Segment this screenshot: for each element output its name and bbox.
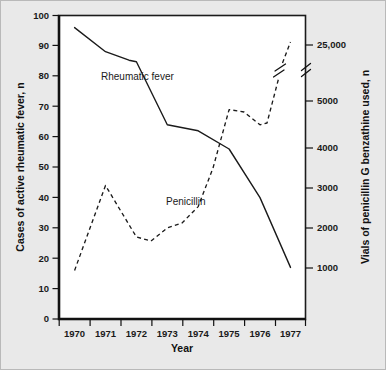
xtick-label-1975: 1975 (219, 328, 241, 339)
y2tick-label-3000: 3000 (317, 182, 338, 193)
x-axis-title: Year (171, 342, 193, 354)
xtick-label-1976: 1976 (249, 328, 270, 339)
xtick-label-1977: 1977 (280, 328, 301, 339)
xtick-label-1973: 1973 (157, 328, 178, 339)
y2-axis-title: Vials of penicillin G benzathine used, n (359, 70, 371, 264)
xtick-label-1972: 1972 (126, 328, 147, 339)
y2tick-label-25000: 25,000 (317, 39, 346, 50)
y-axis-title-group: Cases of active rheumatic fever, n (14, 82, 26, 251)
ytick-label-90: 90 (38, 40, 49, 51)
annotation-penicillin: Penicillin (166, 196, 205, 207)
xtick-label-1970: 1970 (64, 328, 85, 339)
xtick-label-1971: 1971 (95, 328, 117, 339)
x-axis-tick-labels: 1970 1971 1972 1973 1974 1975 1976 1977 (64, 328, 301, 339)
ytick-label-100: 100 (33, 10, 49, 21)
ytick-label-60: 60 (38, 131, 49, 142)
ytick-label-70: 70 (38, 101, 49, 112)
ytick-label-80: 80 (38, 70, 49, 81)
ytick-label-40: 40 (38, 192, 49, 203)
ytick-label-50: 50 (38, 161, 49, 172)
plot-area-frame (59, 16, 306, 320)
y-axis-title: Cases of active rheumatic fever, n (14, 82, 26, 251)
ytick-label-30: 30 (38, 222, 49, 233)
y2tick-label-5000: 5000 (317, 95, 338, 106)
left-axis-tick-labels: 0 10 20 30 40 50 60 70 80 90 100 (33, 10, 49, 324)
y2-axis-title-group: Vials of penicillin G benzathine used, n (359, 70, 371, 264)
chart-figure: 0 10 20 30 40 50 60 70 80 90 100 (1, 1, 386, 370)
figure-page: 0 10 20 30 40 50 60 70 80 90 100 (0, 0, 386, 370)
y2tick-label-2000: 2000 (317, 222, 338, 233)
y2tick-label-4000: 4000 (317, 142, 338, 153)
right-axis-tick-labels: 1000 2000 3000 4000 5000 25,000 (317, 39, 346, 273)
y2tick-label-1000: 1000 (317, 262, 338, 273)
ytick-label-10: 10 (38, 283, 49, 294)
chart-svg: 0 10 20 30 40 50 60 70 80 90 100 (1, 1, 386, 370)
right-axis-ticks (306, 45, 314, 268)
xtick-label-1974: 1974 (188, 328, 210, 339)
annotation-rheumatic-fever: Rheumatic fever (101, 71, 174, 82)
ytick-label-0: 0 (44, 313, 49, 324)
ytick-label-20: 20 (38, 253, 49, 264)
